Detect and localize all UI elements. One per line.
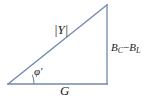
susceptance-capacitive-symbol: B — [111, 41, 118, 53]
label-phase-angle: φ′ — [34, 66, 43, 77]
admittance-triangle-figure: |Y| G BC−BL φ′ — [0, 0, 148, 98]
hypotenuse-line-admittance — [8, 5, 107, 84]
label-admittance-magnitude: |Y| — [54, 23, 68, 36]
susceptance-inductive-subscript: L — [136, 46, 140, 55]
susceptance-inductive-symbol: B — [129, 41, 136, 53]
label-conductance: G — [60, 84, 69, 97]
label-net-susceptance: BC−BL — [111, 42, 140, 55]
